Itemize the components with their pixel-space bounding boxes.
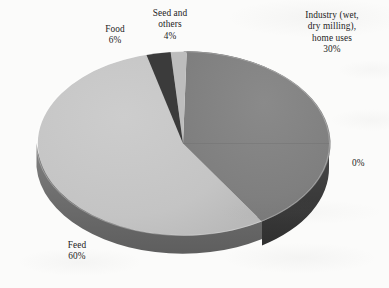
slice-label-seed-and-others: Seed and others 4% [134, 8, 206, 42]
pie-chart-figure: Industry (wet, dry milling), home uses 3… [0, 0, 389, 288]
slice-label-industry: Industry (wet, dry milling), home uses 3… [276, 10, 388, 56]
slice-label-zero: 0% [352, 158, 380, 169]
slice-label-feed: Feed 60% [44, 240, 110, 263]
slice-label-food: Food 6% [86, 24, 144, 47]
